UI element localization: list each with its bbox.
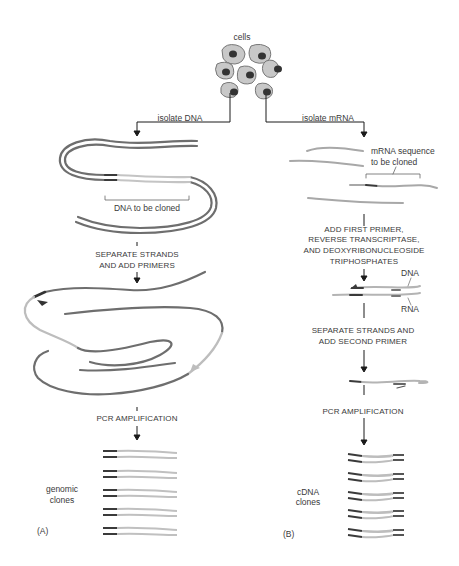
cells-cluster-icon: [216, 44, 283, 99]
add-first-primer-label-4: TRIPHOSPHATES: [330, 257, 398, 267]
cdna-clones-label-2: clones: [296, 497, 321, 507]
cdna-clones-label-1: cDNA: [297, 487, 319, 497]
separate-strands-label-b1: SEPARATE STRANDS AND: [312, 326, 415, 336]
dna-to-clone-label: DNA to be cloned: [114, 203, 180, 213]
dna-strand-label: DNA: [401, 268, 419, 278]
isolate-mrna-label: isolate mRNA: [302, 113, 354, 123]
panel-b-tag: (B): [283, 529, 294, 539]
separate-strands-label-b2: ADD SECOND PRIMER: [319, 337, 407, 347]
pcr-amplification-label-b: PCR AMPLIFICATION: [322, 407, 403, 417]
rna-strand-label: RNA: [401, 304, 419, 314]
genomic-clones-label-1: genomic: [46, 484, 78, 494]
dna-rna-hybrid: [333, 278, 420, 305]
separated-strands: [25, 272, 223, 394]
single-strand-second-primer: [350, 381, 427, 388]
cells-label: cells: [233, 32, 250, 42]
dna-to-clone-bracket: [105, 196, 189, 200]
genomic-clones: [103, 451, 177, 535]
mrna-sequence-label-1: mRNA sequence: [371, 146, 435, 156]
genomic-dna-duplex: [60, 140, 217, 233]
separate-strands-label-a2: AND ADD PRIMERS: [99, 261, 175, 271]
add-first-primer-label-1: ADD FIRST PRIMER,: [324, 225, 403, 235]
panel-a-tag: (A): [37, 526, 48, 536]
genomic-clones-label-2: clones: [50, 495, 75, 505]
pcr-amplification-label-a: PCR AMPLIFICATION: [96, 414, 177, 424]
mrna-sequence-label-2: to be cloned: [371, 157, 417, 167]
diagram-canvas: [0, 0, 459, 566]
separate-strands-label-a1: SEPARATE STRANDS: [95, 250, 179, 260]
cdna-clones: [348, 454, 404, 537]
add-first-primer-label-2: REVERSE TRANSCRIPTASE,: [308, 235, 419, 245]
isolate-dna-label: isolate DNA: [158, 113, 203, 123]
add-first-primer-label-3: AND DEOXYRIBONUCLEOSIDE: [304, 246, 425, 256]
mrna-bracket: [366, 174, 420, 178]
